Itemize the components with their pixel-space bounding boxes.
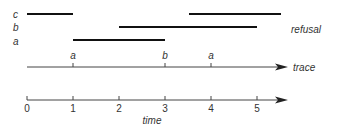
trace-label: trace — [293, 62, 316, 73]
time-tick-label: 4 — [208, 103, 214, 114]
refusal-trace-diagram: c b a refusal a b a trace 0 1 2 3 4 5 — [0, 0, 340, 130]
row-label-a: a — [13, 36, 19, 47]
trace-axis: a b a — [27, 50, 288, 71]
row-label-c: c — [13, 9, 18, 20]
refusal-bars — [27, 14, 281, 40]
time-tick-label: 5 — [254, 103, 260, 114]
time-label: time — [143, 115, 162, 126]
trace-event-label: a — [70, 50, 76, 61]
row-label-b: b — [13, 22, 19, 33]
time-tick-label: 1 — [70, 103, 76, 114]
trace-event-label: a — [208, 50, 214, 61]
time-tick-label: 3 — [162, 103, 168, 114]
refusal-label: refusal — [291, 24, 322, 35]
time-tick-label: 0 — [24, 103, 30, 114]
time-axis: 0 1 2 3 4 5 — [24, 96, 288, 114]
trace-event-label: b — [162, 50, 168, 61]
time-tick-label: 2 — [116, 103, 122, 114]
